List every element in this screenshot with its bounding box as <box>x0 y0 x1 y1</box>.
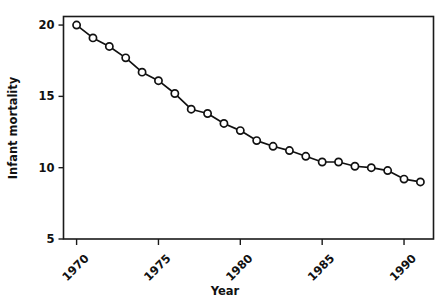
data-point-marker <box>220 120 227 127</box>
data-point-marker <box>73 21 80 28</box>
data-point-marker <box>400 176 407 183</box>
data-point-marker <box>122 54 129 61</box>
data-point-marker <box>171 90 178 97</box>
data-point-marker <box>417 178 424 185</box>
data-point-marker <box>237 127 244 134</box>
data-point-marker <box>106 43 113 50</box>
data-point-marker <box>286 147 293 154</box>
infant-mortality-chart: 5101520 19701975198019851990 Year Infant… <box>0 0 444 308</box>
data-point-marker <box>368 164 375 171</box>
y-tick-label: 15 <box>38 89 54 103</box>
y-axis-title: Infant mortality <box>6 76 20 179</box>
data-point-marker <box>351 163 358 170</box>
chart-background <box>0 0 444 308</box>
y-tick-label: 5 <box>46 232 54 246</box>
data-point-marker <box>89 34 96 41</box>
data-point-marker <box>253 137 260 144</box>
data-point-marker <box>138 69 145 76</box>
data-point-marker <box>188 106 195 113</box>
y-tick-label: 20 <box>38 18 54 32</box>
data-point-marker <box>335 158 342 165</box>
x-axis-title: Year <box>210 284 240 298</box>
data-point-marker <box>204 110 211 117</box>
y-tick-label: 10 <box>38 161 54 175</box>
chart-canvas: 5101520 19701975198019851990 Year Infant… <box>0 0 444 308</box>
data-point-marker <box>155 77 162 84</box>
data-point-marker <box>302 153 309 160</box>
data-point-marker <box>384 167 391 174</box>
data-point-marker <box>319 158 326 165</box>
data-point-marker <box>269 143 276 150</box>
